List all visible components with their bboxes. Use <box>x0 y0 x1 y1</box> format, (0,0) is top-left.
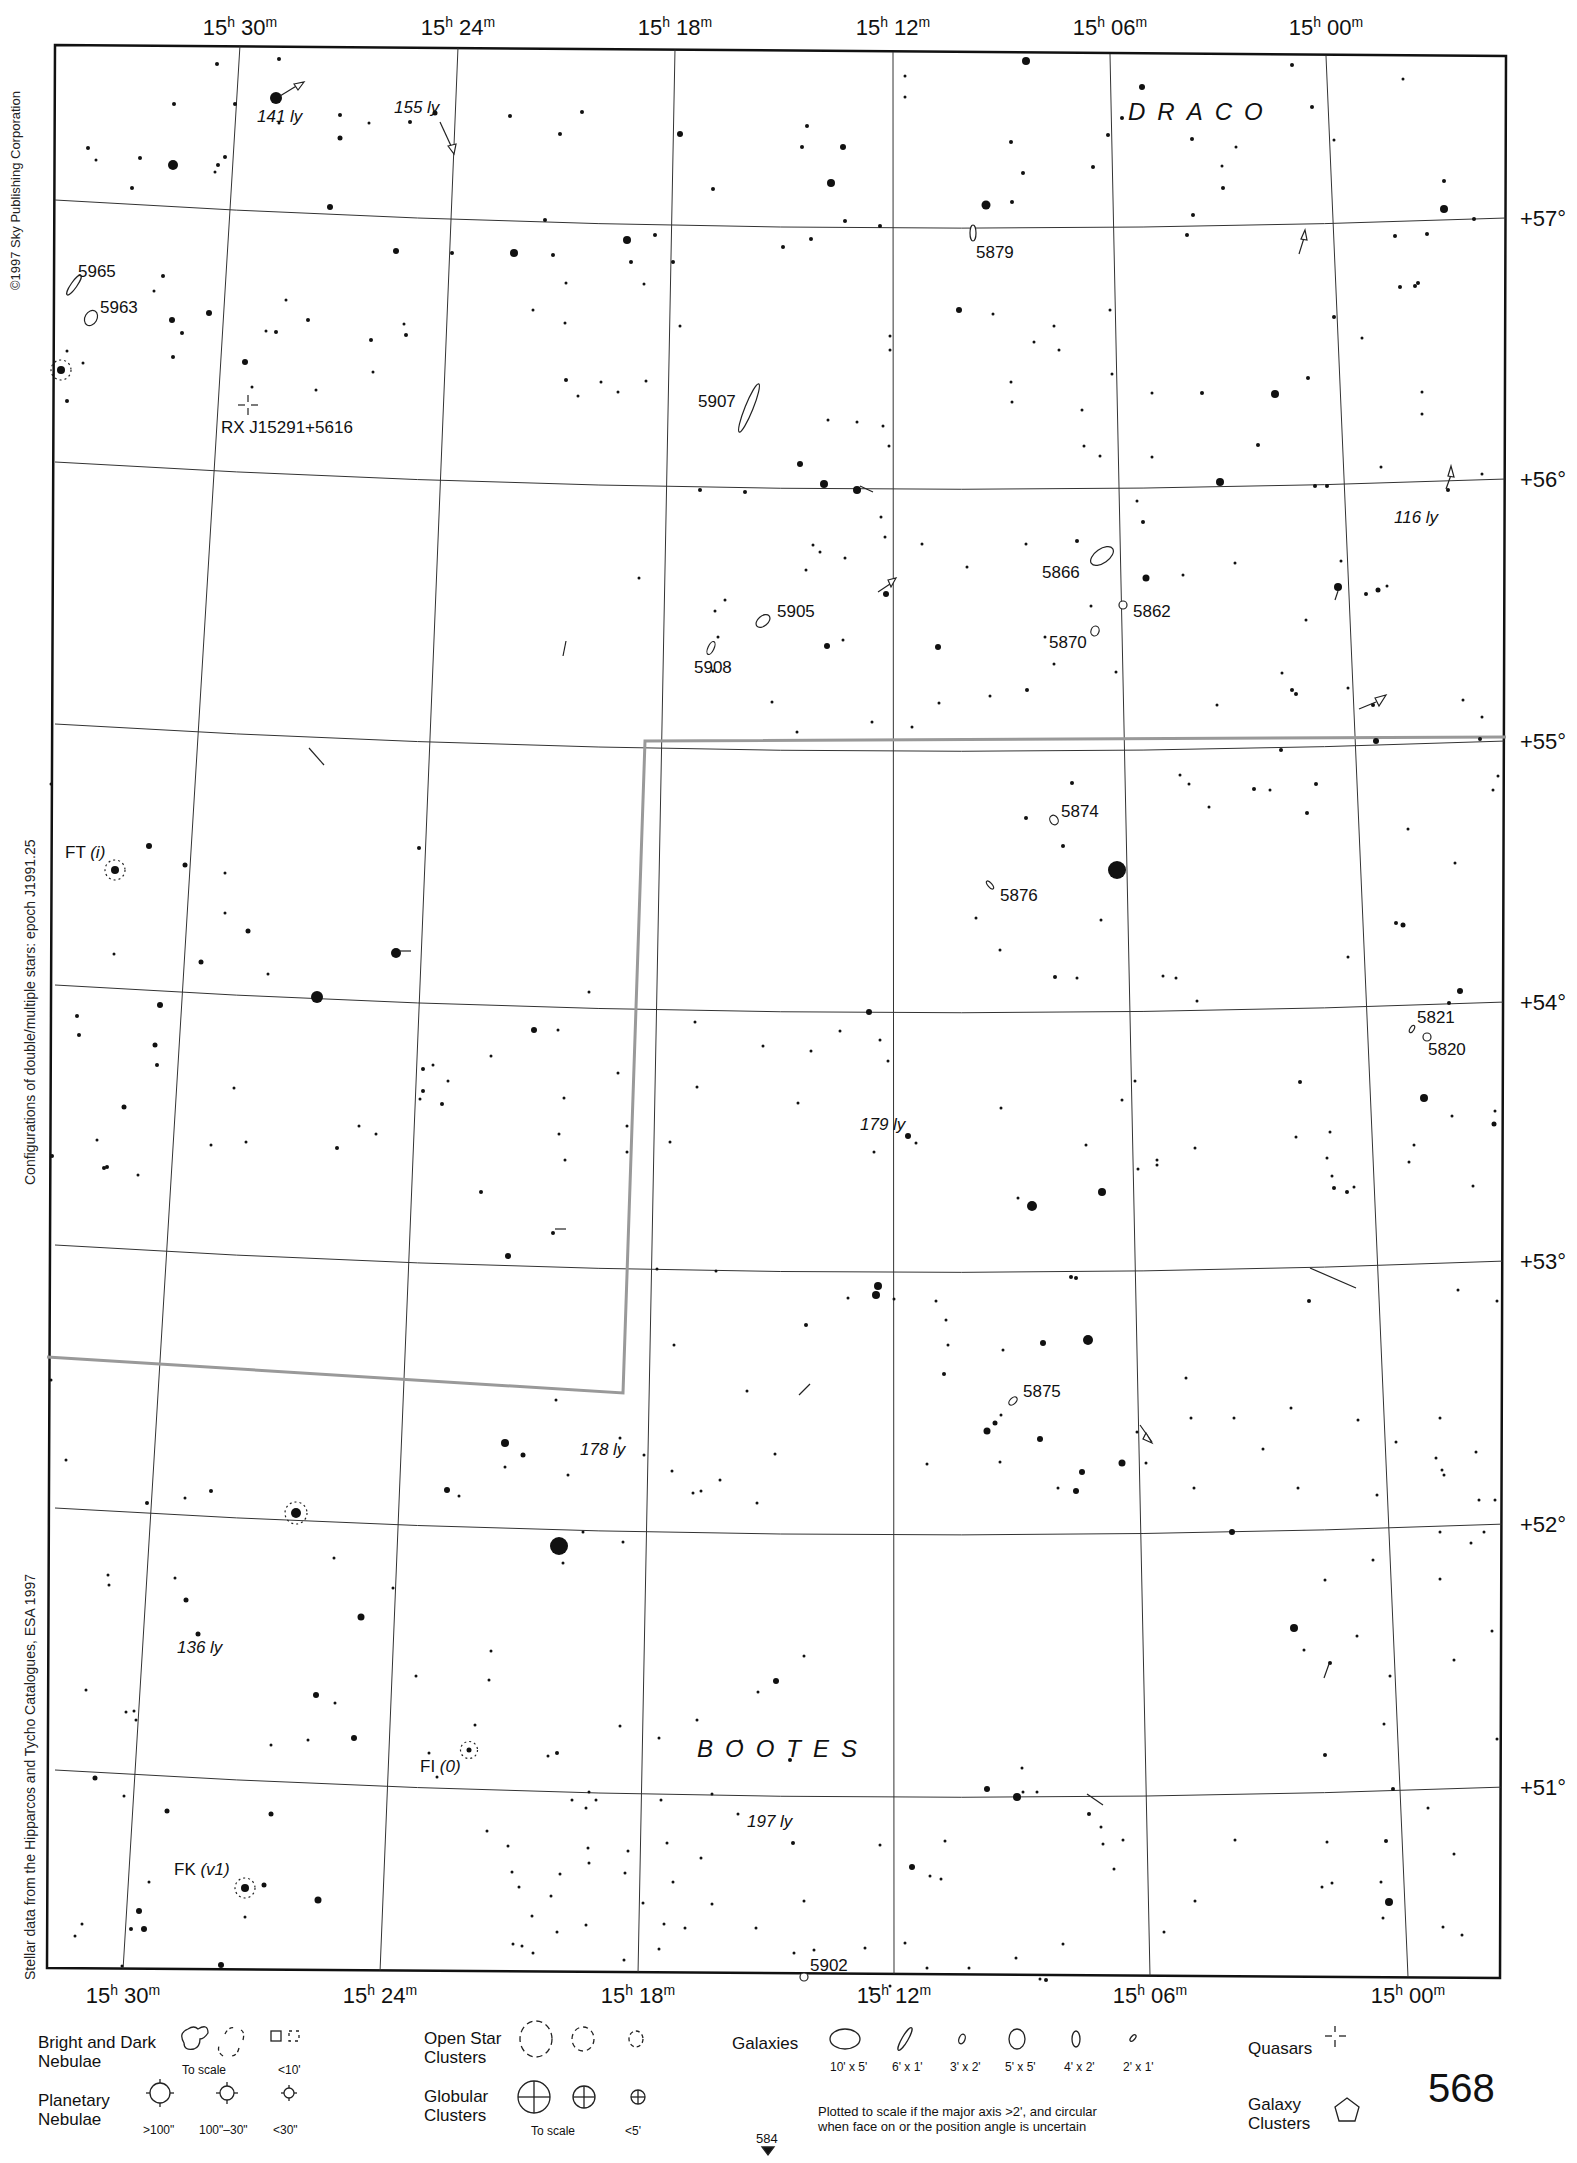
star <box>169 317 175 323</box>
star <box>564 378 568 382</box>
star <box>904 75 907 78</box>
star <box>658 1948 661 1951</box>
galaxy-label: 5876 <box>1000 886 1038 906</box>
galaxy-10x5-icon <box>830 2029 860 2049</box>
star <box>1393 234 1397 238</box>
star <box>1314 782 1318 786</box>
star <box>1326 1157 1329 1160</box>
star <box>1024 816 1028 820</box>
star <box>587 1847 590 1850</box>
next-page-arrow-icon <box>762 2147 774 2155</box>
star <box>1441 1469 1444 1472</box>
star <box>1036 1791 1039 1794</box>
star <box>813 1949 816 1952</box>
star <box>1481 716 1484 719</box>
star <box>1062 1943 1065 1946</box>
star <box>756 1502 759 1505</box>
star <box>307 1739 310 1742</box>
star <box>133 1710 136 1713</box>
star <box>1478 737 1482 741</box>
star <box>696 1719 699 1722</box>
star <box>582 1531 585 1534</box>
star <box>1145 1462 1148 1465</box>
star <box>803 1900 806 1903</box>
star <box>508 114 512 118</box>
star <box>623 236 631 244</box>
star <box>619 1725 622 1728</box>
star <box>819 551 822 554</box>
star <box>1443 1474 1446 1477</box>
star <box>550 1537 568 1555</box>
star <box>1307 1299 1311 1303</box>
star <box>1290 1624 1298 1632</box>
star-chart <box>0 0 1577 2163</box>
star <box>157 1002 163 1008</box>
star <box>125 1711 128 1714</box>
star <box>214 171 217 174</box>
star <box>719 1479 722 1482</box>
star <box>518 1886 521 1889</box>
star <box>153 1043 158 1048</box>
star <box>629 260 633 264</box>
next-page-link[interactable]: 584 <box>756 2131 778 2146</box>
star <box>1496 1738 1499 1741</box>
star <box>1074 1276 1078 1280</box>
star <box>1075 539 1079 543</box>
star <box>1090 605 1093 608</box>
star <box>113 953 116 956</box>
star <box>490 1055 493 1058</box>
configurations-note: Configurations of double/multiple stars:… <box>22 839 38 1185</box>
star <box>856 421 859 424</box>
ra-tick-label: 15h 24m <box>421 14 496 41</box>
star <box>1216 478 1224 486</box>
quasar-label: RX J15291+5616 <box>221 418 353 438</box>
quasar-icon <box>238 395 258 415</box>
star <box>947 1344 950 1347</box>
star <box>810 1050 813 1053</box>
star <box>797 461 803 467</box>
star <box>1013 1793 1021 1801</box>
star <box>1394 921 1398 925</box>
star <box>338 136 343 141</box>
star <box>215 62 219 66</box>
grid <box>55 45 1506 1977</box>
star <box>129 1927 133 1931</box>
star <box>122 1105 127 1110</box>
star <box>840 144 846 150</box>
star <box>1294 692 1298 696</box>
star <box>1461 1934 1464 1937</box>
galaxy-label: 5905 <box>777 602 815 622</box>
star <box>421 1089 425 1093</box>
star <box>1025 688 1029 692</box>
star <box>1175 977 1178 980</box>
star <box>1439 1531 1442 1534</box>
star <box>1453 1659 1456 1662</box>
galaxy-2x1-icon <box>1129 2034 1137 2043</box>
star <box>391 948 401 958</box>
star <box>984 1428 991 1435</box>
ra-tick-label: 15h 06m <box>1073 14 1148 41</box>
star <box>878 224 882 228</box>
star <box>562 1562 565 1565</box>
star <box>773 1678 779 1684</box>
star <box>1185 233 1189 237</box>
star <box>940 1878 943 1881</box>
star <box>1021 171 1025 175</box>
galaxy-icon <box>82 308 100 328</box>
star <box>1188 783 1191 786</box>
star <box>843 219 847 223</box>
star <box>50 783 53 786</box>
star <box>694 1021 697 1024</box>
star <box>1472 217 1476 221</box>
star <box>141 1926 147 1932</box>
star <box>879 1844 882 1847</box>
star <box>270 92 282 104</box>
star <box>935 1300 938 1303</box>
star <box>809 237 813 241</box>
star <box>643 283 646 286</box>
star <box>1420 1094 1428 1102</box>
star <box>1439 1417 1442 1420</box>
star <box>1235 146 1238 149</box>
star <box>1329 1131 1332 1134</box>
star <box>372 371 375 374</box>
